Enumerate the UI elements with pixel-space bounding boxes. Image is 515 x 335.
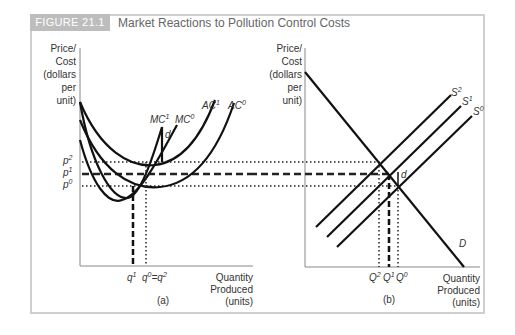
s2-label: S2 — [451, 86, 462, 98]
Q2-label: Q2 — [369, 271, 381, 283]
demand-curve — [305, 72, 464, 267]
d-label-b: d — [401, 169, 407, 180]
svg-text:Produced: Produced — [210, 284, 253, 295]
svg-text:(units): (units) — [225, 296, 253, 307]
svg-text:Price/: Price/ — [276, 43, 302, 54]
panel-a: Price/ Cost (dollars per unit) MC1 MC0 A… — [43, 43, 253, 307]
Q1-label: Q1 — [383, 271, 395, 283]
d-label-a: d — [165, 129, 171, 140]
p2-label: p2 — [62, 154, 73, 166]
s0-label: S0 — [473, 105, 484, 117]
p1-label: p1 — [62, 166, 73, 178]
panel-a-xlabel: Quantity Produced (units) — [210, 272, 253, 307]
panel-b-xlabel: Quantity Produced (units) — [437, 273, 480, 308]
s1-label: S1 — [462, 95, 473, 107]
s2-curve — [316, 95, 451, 227]
panel-a-caption: (a) — [157, 295, 169, 306]
p0-label: p0 — [62, 178, 73, 190]
panel-b: Price/ Cost (dollars per unit) S2 S1 S0 … — [250, 43, 484, 308]
svg-text:unit): unit) — [57, 95, 76, 106]
svg-text:Quantity: Quantity — [216, 272, 253, 283]
panel-a-ylabel: Price/ Cost (dollars per unit) — [43, 43, 76, 106]
mc0-label: MC0 — [175, 113, 195, 125]
svg-text:Cost: Cost — [281, 56, 302, 67]
svg-text:Quantity: Quantity — [443, 273, 480, 284]
svg-text:per: per — [62, 82, 77, 93]
svg-text:per: per — [288, 82, 303, 93]
panel-b-caption: (b) — [383, 294, 395, 305]
demand-label: D — [459, 238, 466, 249]
ac0-label: AC0 — [227, 99, 246, 111]
svg-text:Cost: Cost — [55, 56, 76, 67]
svg-text:(dollars: (dollars — [269, 69, 302, 80]
chart-svg: Price/ Cost (dollars per unit) MC1 MC0 A… — [0, 0, 515, 335]
svg-text:Price/: Price/ — [50, 43, 76, 54]
mc1-label: MC1 — [150, 113, 170, 125]
panel-b-ylabel: Price/ Cost (dollars per unit) — [269, 43, 302, 106]
s1-curve — [327, 106, 461, 237]
svg-text:(dollars: (dollars — [43, 69, 76, 80]
ac1-label: AC1 — [201, 99, 220, 111]
svg-text:unit): unit) — [283, 95, 302, 106]
svg-text:(units): (units) — [452, 297, 480, 308]
q1-label: q1 — [127, 271, 137, 283]
svg-text:Produced: Produced — [437, 285, 480, 296]
q0-q2-label: q0=q2 — [142, 271, 167, 283]
Q0-label: Q0 — [396, 271, 408, 283]
